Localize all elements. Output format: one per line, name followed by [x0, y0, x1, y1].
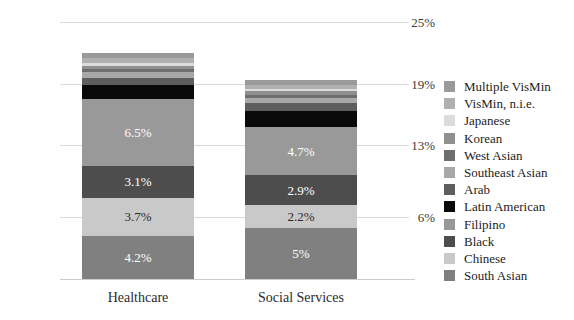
legend-item-label: Southeast Asian	[464, 166, 547, 179]
legend-item[interactable]: West Asian	[444, 147, 574, 164]
y-axis-tick-label: 6%	[383, 211, 435, 224]
legend-item-label: South Asian	[464, 269, 527, 282]
x-axis-baseline	[60, 279, 415, 280]
legend-item[interactable]: Latin American	[444, 198, 574, 215]
x-axis-category-label: Social Services	[245, 291, 357, 305]
bar-segment-value-label: 2.9%	[287, 184, 314, 197]
plot-area: 6%13%19%25% 4.2%3.7%3.1%6.5%5%2.2%2.9%4.…	[0, 0, 435, 320]
legend-item-label: Filipino	[464, 218, 505, 231]
legend-item[interactable]: Filipino	[444, 216, 574, 233]
bar-segment[interactable]	[82, 85, 194, 99]
bar-segment-value-label: 6.5%	[124, 126, 151, 139]
legend-color-swatch	[444, 253, 455, 264]
bar-segment[interactable]: 2.2%	[245, 205, 357, 228]
bar-segment[interactable]	[245, 91, 357, 94]
legend-color-swatch	[444, 270, 455, 281]
legend-item[interactable]: Korean	[444, 130, 574, 147]
bar-segment[interactable]	[245, 98, 357, 103]
legend-item-label: Black	[464, 235, 494, 248]
bar-segment[interactable]	[245, 89, 357, 92]
legend-color-swatch	[444, 219, 455, 230]
gridline	[60, 22, 409, 23]
bar-segment[interactable]	[245, 80, 357, 85]
bar-segment-value-label: 2.2%	[287, 210, 314, 223]
legend-item[interactable]: VisMin, n.i.e.	[444, 95, 574, 112]
bar-segment[interactable]: 5%	[245, 228, 357, 279]
bar-segment[interactable]: 3.7%	[82, 198, 194, 236]
legend-item[interactable]: Chinese	[444, 250, 574, 267]
y-axis-tick-label: 13%	[383, 139, 435, 152]
bar-segment[interactable]	[245, 111, 357, 127]
legend-color-swatch	[444, 184, 455, 195]
legend-item-label: West Asian	[464, 149, 523, 162]
bar-segment[interactable]	[245, 85, 357, 89]
bar-segment[interactable]	[82, 69, 194, 73]
y-axis-tick-label: 25%	[383, 16, 435, 29]
legend-item[interactable]: Black	[444, 233, 574, 250]
bar-segment-value-label: 3.7%	[124, 210, 151, 223]
legend-color-swatch	[444, 115, 455, 126]
legend-item[interactable]: Southeast Asian	[444, 164, 574, 181]
legend-item[interactable]: Multiple VisMin	[444, 78, 574, 95]
y-axis-tick-label: 19%	[383, 77, 435, 90]
stacked-bar[interactable]: 5%2.2%2.9%4.7%	[245, 80, 357, 279]
bar-segment[interactable]	[245, 95, 357, 99]
bar-segment-value-label: 3.1%	[124, 175, 151, 188]
bar-segment[interactable]	[245, 103, 357, 111]
chart-root: 6%13%19%25% 4.2%3.7%3.1%6.5%5%2.2%2.9%4.…	[0, 0, 574, 320]
bar-segment[interactable]	[82, 66, 194, 69]
bar-segment[interactable]	[82, 63, 194, 66]
legend-item[interactable]: Arab	[444, 181, 574, 198]
legend-item-label: VisMin, n.i.e.	[464, 97, 535, 110]
legend-item-label: Latin American	[464, 200, 545, 213]
legend-item-label: Chinese	[464, 252, 506, 265]
bar-segment-value-label: 4.7%	[287, 145, 314, 158]
bar-segment[interactable]: 4.2%	[82, 236, 194, 279]
bar-segment[interactable]	[82, 72, 194, 77]
legend: Multiple VisMinVisMin, n.i.e.JapaneseKor…	[444, 78, 574, 284]
legend-color-swatch	[444, 201, 455, 212]
bar-segment[interactable]: 3.1%	[82, 166, 194, 198]
bar-segment-value-label: 5%	[292, 247, 309, 260]
legend-color-swatch	[444, 236, 455, 247]
legend-item-label: Japanese	[464, 114, 510, 127]
legend-color-swatch	[444, 81, 455, 92]
legend-color-swatch	[444, 167, 455, 178]
legend-color-swatch	[444, 150, 455, 161]
bar-segment[interactable]: 4.7%	[245, 127, 357, 175]
legend-item[interactable]: Japanese	[444, 112, 574, 129]
x-axis-category-label: Healthcare	[82, 291, 194, 305]
bar-segment[interactable]	[82, 58, 194, 63]
legend-item[interactable]: South Asian	[444, 267, 574, 284]
legend-item-label: Multiple VisMin	[464, 80, 551, 93]
stacked-bar[interactable]: 4.2%3.7%3.1%6.5%	[82, 53, 194, 279]
legend-color-swatch	[444, 133, 455, 144]
legend-item-label: Korean	[464, 132, 502, 145]
legend-color-swatch	[444, 98, 455, 109]
bar-segment-value-label: 4.2%	[124, 251, 151, 264]
bar-segment[interactable]: 2.9%	[245, 175, 357, 205]
legend-item-label: Arab	[464, 183, 490, 196]
bar-segment[interactable]	[82, 53, 194, 58]
bar-segment[interactable]	[82, 78, 194, 86]
bar-segment[interactable]: 6.5%	[82, 99, 194, 166]
